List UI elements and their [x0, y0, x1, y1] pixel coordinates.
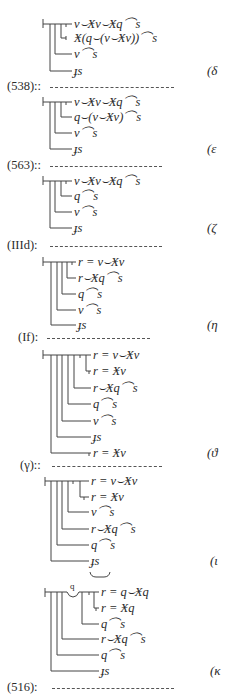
- block-kappa-strokes: [45, 588, 99, 671]
- separator-dashes: [50, 166, 162, 167]
- concavity-letter: q: [70, 582, 75, 591]
- formula-row: v⌣Ӿv⌣Ӿq⌒s: [74, 96, 140, 108]
- separator-dashes: [50, 246, 162, 247]
- equation-tag: (η: [207, 319, 218, 331]
- formula-row: ɟs: [78, 319, 86, 331]
- formula-row: q⌒s: [93, 398, 117, 410]
- equation-tag: (δ: [207, 65, 217, 77]
- separator-dashes: [50, 87, 174, 88]
- formula-row: r = v⌣Ӿv: [78, 256, 124, 268]
- formula-row: ɟs: [91, 555, 99, 567]
- separator-label: (563)::: [7, 159, 41, 171]
- separator-label: (538)::: [7, 80, 41, 92]
- equation-tag: (ζ: [207, 222, 217, 234]
- formula-row: r = v⌣Ӿv: [91, 475, 137, 487]
- formula-row: v⌣Ӿv⌣Ӿq⌒s: [74, 175, 140, 187]
- formula-row: r = Ӿq: [101, 602, 134, 614]
- formula-row: r = v⌣Ӿv: [93, 349, 139, 361]
- formula-row: r = Ӿv: [93, 365, 126, 377]
- formula-row: r = q⌣Ӿq: [101, 586, 149, 598]
- formula-row: v⌒s: [74, 127, 97, 139]
- formula-row: v⌒s: [78, 304, 101, 316]
- formula-row: q⌒s: [74, 190, 98, 202]
- formula-row: ɟs: [74, 65, 82, 77]
- separator-label: (IIId):: [7, 239, 38, 251]
- equation-tag: (κ: [210, 665, 221, 677]
- formula-row: v⌒s: [91, 506, 114, 518]
- block-zeta-strokes: [43, 176, 72, 228]
- equation-tag: (ϑ: [207, 447, 218, 459]
- separator-label: (γ)::: [20, 459, 41, 471]
- formula-row: v⌒s: [74, 206, 97, 218]
- block-eta-strokes: [43, 257, 76, 325]
- formula-row: r⌣Ӿq⌒s: [101, 633, 146, 645]
- separator-dashes: [52, 688, 174, 689]
- block-theta-strokes: [43, 350, 91, 456]
- separator-dashes: [52, 466, 162, 467]
- equation-tag: (ι: [210, 555, 218, 567]
- formula-row: q⌒s: [101, 618, 125, 630]
- formula-row: r⌣Ӿq⌒s: [93, 382, 138, 394]
- formula-row: r = Ӿv: [93, 447, 126, 459]
- formula-row: r⌣Ӿq⌒s: [78, 272, 123, 284]
- formula-row: q⌒s: [78, 288, 102, 300]
- formula-row: v⌣Ӿv⌣Ӿq⌒s: [74, 18, 140, 30]
- separator-dashes: [47, 338, 150, 339]
- formula-row: v⌒s: [93, 415, 116, 427]
- formula-row: v⌒s: [74, 48, 97, 60]
- formula-row: r⌣Ӿq⌒s: [91, 523, 136, 535]
- formula-row: r = Ӿv: [91, 491, 124, 503]
- formula-row: ɟs: [93, 431, 101, 443]
- formula-row: q⌣(v⌣Ӿv)⌒s: [74, 111, 141, 123]
- formula-row: Ӿ(q⌣(v⌣Ӿv))⌒s: [74, 32, 157, 44]
- formula-row: ɟs: [101, 665, 109, 677]
- formula-row: ɟs: [74, 222, 82, 234]
- formula-row: q⌒s: [91, 539, 115, 551]
- formula-row: q⌒s: [101, 649, 125, 661]
- block-epsilon-strokes: [43, 97, 72, 149]
- separator-label: (If):: [18, 331, 38, 343]
- formula-row: ɟs: [74, 143, 82, 155]
- begriffsschrift-derivation: v⌣Ӿv⌣Ӿq⌒s Ӿ(q⌣(v⌣Ӿv))⌒s v⌒s ɟs (δ (538):…: [0, 0, 233, 698]
- separator-label: (516):: [7, 681, 38, 693]
- equation-tag: (ε: [207, 143, 216, 155]
- block-delta-strokes: [43, 19, 72, 71]
